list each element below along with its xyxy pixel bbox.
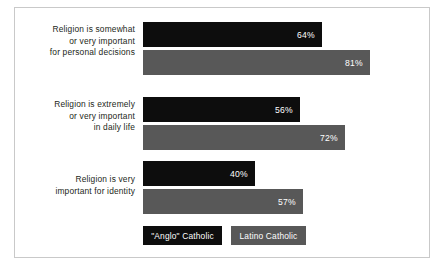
bar-anglo-0: 64% [143, 22, 322, 47]
category-label: Religion is somewhat or very important f… [19, 24, 135, 59]
legend-label: "Anglo" Catholic [151, 231, 214, 241]
category-label: Religion is very important for identity [19, 174, 135, 197]
bar-value-label: 81% [345, 58, 370, 68]
bar-value-label: 40% [230, 169, 255, 179]
category-label: Religion is extremely or very important … [19, 99, 135, 134]
bar-value-label: 57% [278, 197, 303, 207]
legend-item-anglo-catholic[interactable]: "Anglo" Catholic [143, 226, 222, 245]
chart-legend: "Anglo" Catholic Latino Catholic [15, 226, 429, 248]
bar-latino-1: 72% [143, 125, 345, 150]
legend-item-latino-catholic[interactable]: Latino Catholic [231, 226, 306, 245]
bar-value-label: 72% [320, 133, 345, 143]
legend-label: Latino Catholic [240, 231, 298, 241]
bar-group: Religion is somewhat or very important f… [15, 18, 429, 80]
bar-value-label: 64% [297, 30, 322, 40]
chart-frame: Religion is somewhat or very important f… [14, 7, 430, 258]
bar-group: Religion is extremely or very important … [15, 93, 429, 155]
bar-value-label: 56% [275, 105, 300, 115]
chart-figure: Religion is somewhat or very important f… [0, 0, 447, 269]
bar-anglo-2: 40% [143, 161, 255, 186]
bar-latino-2: 57% [143, 189, 303, 214]
bar-latino-0: 81% [143, 50, 370, 75]
plot-area: Religion is somewhat or very important f… [15, 8, 429, 257]
bar-group: Religion is very important for identity … [15, 157, 429, 219]
bar-anglo-1: 56% [143, 97, 300, 122]
